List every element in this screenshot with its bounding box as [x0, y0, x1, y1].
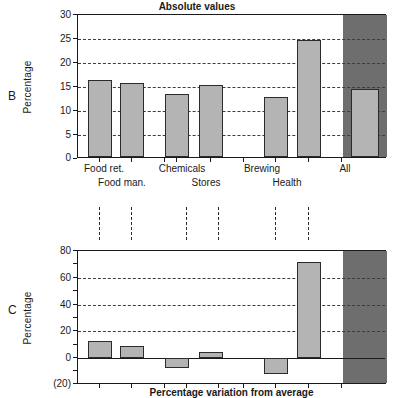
panel-c-bar-food-man [120, 346, 144, 359]
connector-line-food-man [131, 207, 132, 240]
panel-c-ytick-20: 20 [38, 325, 71, 336]
panel-c-ytick-80: 80 [38, 245, 71, 256]
panel-b-bar-brewing [264, 97, 288, 157]
panel-c-letter: C [8, 303, 17, 317]
connector-line-health [308, 207, 309, 240]
panel-b-xtickmark [176, 158, 177, 162]
panel-b-bar-food-man [120, 83, 144, 157]
panel-c-bar-food-ret [88, 341, 112, 358]
panel-c-ytick-neg20: (20) [30, 378, 71, 389]
panel-b-xtickmark [308, 158, 309, 162]
panel-b-bar-food-ret [88, 80, 112, 157]
panel-c-x-title: Percentage variation from average [77, 387, 386, 398]
panel-b-xtickmark [341, 158, 342, 162]
panel-b-ytick-5: 5 [38, 129, 71, 140]
panel-c-gridline-20 [78, 331, 385, 332]
panel-b-ylabel: Percentage [22, 60, 33, 113]
panel-c-bar-health [297, 262, 321, 358]
panel-b-cat-food-ret: Food ret. [70, 163, 138, 174]
panel-b-ytick-15: 15 [38, 81, 71, 92]
panel-b-bar-health [297, 40, 321, 157]
panel-b-ytick-10: 10 [38, 105, 71, 116]
panel-b-ytick-20: 20 [38, 57, 71, 68]
panel-c-bar-stores [199, 352, 223, 359]
panel-b-cat-brewing: Brewing [228, 163, 296, 174]
panel-b-gridline-20 [78, 63, 385, 64]
panel-c-all-highlight [343, 251, 387, 383]
connector-line-brewing [275, 207, 276, 240]
panel-b-xtickmark [210, 158, 211, 162]
panel-c-ytick-40: 40 [38, 299, 71, 310]
panel-b-bar-all [351, 89, 379, 157]
panel-b-letter: B [8, 89, 16, 103]
connector-line-chemicals [186, 207, 187, 240]
panel-b-xtickmark [243, 158, 244, 162]
panel-b-cat-all: All [325, 163, 365, 174]
connector-line-stores [218, 207, 219, 240]
panel-c-ytick-60: 60 [38, 272, 71, 283]
connector-line-food-ret [99, 207, 100, 240]
panel-b-bar-chemicals [165, 94, 189, 157]
panel-c-ylabel: Percentage [22, 291, 33, 344]
panel-c-bar-chemicals [165, 358, 189, 367]
panel-b-ytickmark [73, 158, 77, 159]
panel-c-ytick-0: 0 [38, 352, 71, 363]
panel-b-cat-health: Health [253, 177, 321, 188]
panel-b-ytick-25: 25 [38, 33, 71, 44]
panel-c-zero-line [78, 358, 385, 359]
panel-b-xtickmark [275, 158, 276, 162]
panel-c-plot-area [77, 250, 386, 384]
panel-b-ytick-30: 30 [38, 9, 71, 20]
panel-b-cat-food-man: Food man. [87, 177, 157, 188]
panel-b-cat-chemicals: Chemicals [148, 163, 216, 174]
panel-b-xtickmark [99, 158, 100, 162]
panel-c-bar-brewing [264, 358, 288, 373]
panel-b-xtickmark [164, 158, 165, 162]
panel-b-xtickmark [131, 158, 132, 162]
panel-b-plot-area [77, 14, 386, 158]
panel-b-gridline-25 [78, 39, 385, 40]
panel-c-gridline-60 [78, 278, 385, 279]
panel-b-cat-stores: Stores [172, 177, 240, 188]
panel-b-ytick-0: 0 [38, 152, 71, 163]
panel-b-bar-stores [199, 85, 223, 157]
panel-c-gridline-40 [78, 305, 385, 306]
